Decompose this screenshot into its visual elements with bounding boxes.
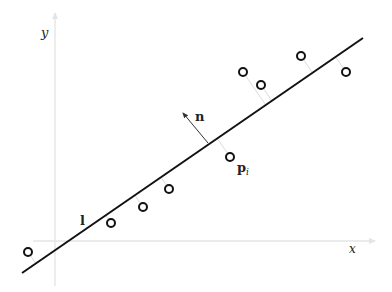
axes [33,13,375,286]
data-point [24,248,32,256]
data-point [342,68,350,76]
data-point [239,68,247,76]
y-axis-label: y [41,26,48,39]
fitted-line [22,38,363,273]
data-point [257,81,265,89]
data-point [297,52,305,60]
x-axis-label: x [349,243,356,255]
point-label-subscript: i [246,167,249,177]
normal-label: n [195,110,204,123]
data-point [139,203,147,211]
data-point [165,185,173,193]
data-point [226,153,234,161]
point-label-main: p [237,160,246,175]
line-fit-diagram [0,0,392,292]
point-label: pi [237,161,249,177]
data-points [24,52,350,256]
data-point [107,219,115,227]
line-label: l [80,214,85,227]
